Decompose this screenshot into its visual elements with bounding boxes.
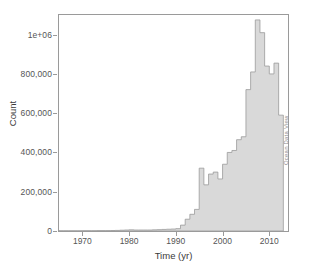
y-tick-mark: [53, 35, 57, 36]
x-tick-label: 1980: [120, 236, 139, 246]
x-tick-label: 1990: [166, 236, 185, 246]
y-tick-label: 600,000: [21, 108, 52, 118]
histogram-bars: [59, 20, 283, 231]
y-tick-mark: [53, 192, 57, 193]
ocean-data-view-watermark: Ocean Data View: [283, 95, 289, 165]
y-tick-label: 800,000: [21, 69, 52, 79]
y-tick-mark: [53, 152, 57, 153]
y-tick-mark: [53, 113, 57, 114]
x-tick-label: 2010: [260, 236, 279, 246]
histogram-svg: [59, 15, 288, 231]
y-axis-title: Count: [7, 79, 18, 149]
chart-page: 0200,000400,000600,000800,0001e+06 Count…: [0, 0, 319, 270]
y-tick-mark: [53, 74, 57, 75]
y-tick-label: 0: [47, 226, 52, 236]
y-tick-mark: [53, 231, 57, 232]
x-tick-label: 1970: [73, 236, 92, 246]
y-tick-label: 1e+06: [28, 30, 52, 40]
x-tick-label: 2000: [213, 236, 232, 246]
plot-area: [58, 14, 289, 232]
y-tick-label: 400,000: [21, 147, 52, 157]
y-tick-label: 200,000: [21, 187, 52, 197]
x-axis-title: Time (yr): [58, 250, 289, 261]
